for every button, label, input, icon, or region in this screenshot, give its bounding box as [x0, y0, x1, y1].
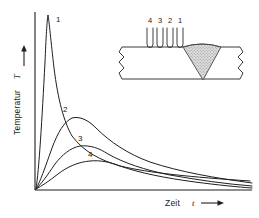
probe-label-2: 2	[168, 16, 172, 25]
curve-label-1: 1	[56, 15, 61, 24]
curve-label-3: 3	[78, 134, 83, 143]
plate-body	[122, 47, 240, 79]
probe-label-4: 4	[148, 16, 152, 25]
curve-label-2: 2	[63, 105, 68, 114]
probe-label-1: 1	[178, 16, 182, 25]
x-axis-label-text: Zeit	[165, 198, 180, 208]
probe-label-3: 3	[158, 16, 162, 25]
figure-root: 4 3 2 1 Temperatur T	[0, 0, 259, 218]
curve-label-4: 4	[88, 150, 93, 159]
y-axis-label-text: Temperatur	[12, 90, 22, 135]
